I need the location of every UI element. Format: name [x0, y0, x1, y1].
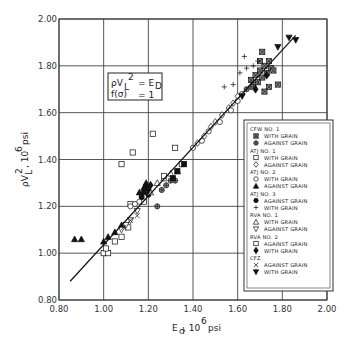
x-axis-label: E d , 10 6 psi: [172, 316, 221, 336]
boxed-x-square-marker: [260, 49, 265, 54]
x-axis-label-exp: 6: [201, 316, 207, 326]
legend-entry-label: AGAINST GRAIN: [264, 226, 308, 232]
x-axis-label-unit: , 10: [183, 323, 200, 333]
boxed-x-square-marker: [262, 89, 267, 94]
y-tick-label: 1.80: [38, 61, 57, 71]
y-axis-label-unit: , 10: [20, 151, 30, 168]
open-square-marker: [112, 239, 117, 244]
legend-entry-label: AGAINST GRAIN: [264, 162, 308, 168]
open-square-marker: [119, 234, 124, 239]
y-axis-label-exp: 6: [14, 146, 24, 152]
legend-group-label: CFZ: [250, 255, 261, 261]
plus-marker: [231, 82, 236, 87]
boxed-x-square-marker: [271, 68, 276, 73]
x-tick-label: 1.80: [273, 304, 292, 314]
filled-square-marker: [170, 176, 175, 181]
plus-marker: [244, 66, 249, 71]
legend-entry-label: WITH GRAIN: [264, 205, 298, 211]
filled-circle-marker: [254, 198, 258, 202]
open-square-marker: [150, 131, 155, 136]
y-axis-label: ρV 2 L , 10 6 psi: [14, 132, 34, 187]
legend-entry-label: AGAINST GRAIN: [264, 183, 308, 189]
eq-line1-rhs-sub: D: [155, 81, 162, 91]
legend-group-label: RVA NO. 1: [250, 212, 278, 218]
open-square-marker: [130, 150, 135, 155]
x-axis-label-main: E: [172, 323, 178, 333]
open-circle-marker: [254, 177, 258, 181]
filled-triangle-down-marker: [275, 45, 281, 51]
legend-entry-label: WITH GRAIN: [264, 248, 298, 254]
y-tick-label: 1.60: [38, 108, 57, 118]
y-axis-label-sup: 2: [14, 168, 24, 174]
y-tick-label: 1.40: [38, 155, 57, 165]
legend-entry-label: WITH GRAIN: [264, 155, 298, 161]
x-tick-label: 1.40: [184, 304, 203, 314]
eq-line2-lhs: f(σ): [111, 89, 127, 99]
plus-marker: [222, 84, 227, 89]
open-square-marker: [254, 241, 258, 245]
boxed-x-square-marker: [254, 134, 258, 138]
y-axis-label-rho: ρV: [20, 174, 30, 187]
y-tick-label: 1.20: [38, 201, 57, 211]
open-square-marker: [254, 155, 258, 159]
legend-group-label: CFW NO. 1: [250, 126, 280, 132]
filled-triangle-up-marker: [72, 236, 78, 242]
crossed-circle-marker: [164, 183, 169, 188]
legend-entry-label: AGAINST GRAIN: [264, 241, 308, 247]
x-tick-label: 0.80: [50, 304, 69, 314]
y-axis-label-psi: psi: [20, 132, 30, 145]
open-square-marker: [103, 246, 108, 251]
legend-entry-label: AGAINST GRAIN: [264, 262, 308, 268]
legend-group-label: ATJ NO. 3: [250, 191, 276, 198]
legend-entry-label: WITH GRAIN: [264, 176, 298, 182]
legend-entry-label: WITH GRAIN: [264, 269, 298, 275]
legend-group-label: ATJ NO. 2: [250, 169, 276, 176]
boxed-x-square-marker: [275, 82, 280, 87]
filled-triangle-up-marker: [78, 236, 84, 242]
x-tick-label: 2.00: [318, 304, 337, 314]
legend-entry-label: AGAINST GRAIN: [264, 140, 308, 146]
filled-triangle-up-marker: [105, 234, 111, 240]
y-tick-label: 1.00: [38, 248, 57, 258]
scatter-chart: 0.801.001.201.401.601.802.000.801.001.20…: [0, 0, 357, 351]
plus-marker: [242, 54, 247, 59]
x-tick-label: 1.60: [228, 304, 247, 314]
x-axis-label-psi: psi: [208, 323, 221, 333]
legend-group-label: RVA NO. 2: [250, 234, 278, 240]
open-square-marker: [173, 145, 178, 150]
crossed-circle-marker: [159, 187, 164, 192]
legend: CFW NO. 1WITH GRAINAGAINST GRAINATJ NO. …: [244, 120, 333, 291]
crossed-circle-marker: [254, 141, 258, 145]
y-axis-label-sub: L: [24, 170, 34, 175]
legend-entry-label: AGAINST GRAIN: [264, 198, 308, 204]
filled-square-marker: [181, 162, 186, 167]
legend-group-label: ATJ NO. 1: [250, 148, 276, 155]
eq-line1-sup: 2: [128, 72, 134, 82]
legend-entry-label: WITH GRAIN: [264, 219, 298, 225]
eq-line2-rhs: = 1: [138, 90, 154, 100]
x-tick-label: 1.20: [139, 304, 158, 314]
crossed-circle-marker: [155, 204, 160, 209]
legend-entry-label: WITH GRAIN: [264, 133, 298, 139]
eq-line1-rhs: = E: [138, 78, 154, 88]
filled-square-marker: [175, 169, 180, 174]
equation-annotation: ρV L 2 = E D f(σ) = 1: [108, 72, 162, 100]
open-square-marker: [119, 162, 124, 167]
plus-marker: [251, 63, 256, 68]
y-tick-label: 2.00: [38, 14, 57, 24]
y-tick-label: 0.80: [38, 295, 57, 305]
x-tick-label: 1.00: [94, 304, 113, 314]
eq-line1-lhs: ρV: [111, 78, 124, 88]
